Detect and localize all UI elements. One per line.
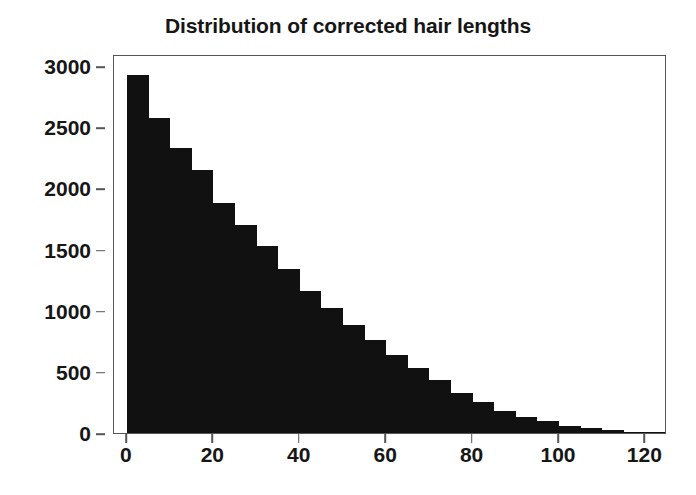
x-tick-label: 120	[627, 443, 662, 467]
x-tick-mark	[471, 434, 473, 443]
x-tick-label: 0	[120, 443, 132, 467]
x-tick-label: 20	[201, 443, 224, 467]
x-tick-label: 100	[540, 443, 575, 467]
x-tick-mark	[125, 434, 127, 443]
x-tick-mark	[557, 434, 559, 443]
x-tick-mark	[384, 434, 386, 443]
x-tick-label: 40	[287, 443, 310, 467]
x-tick-mark	[212, 434, 214, 443]
x-tick-mark	[644, 434, 646, 443]
x-axis: 020406080100120	[0, 0, 696, 495]
histogram-figure: Distribution of corrected hair lengths 0…	[0, 0, 696, 495]
x-tick-mark	[298, 434, 300, 443]
x-tick-label: 60	[373, 443, 396, 467]
x-tick-label: 80	[460, 443, 483, 467]
